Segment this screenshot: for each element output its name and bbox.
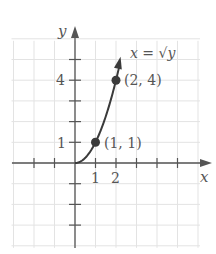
data-point <box>112 76 121 85</box>
equation-label: x = √y <box>130 45 176 61</box>
y-axis-arrow-icon <box>71 26 79 38</box>
curve-arrow-icon <box>114 57 122 70</box>
point-label-1-1: (1, 1) <box>104 135 142 151</box>
graph-figure: y x x = √y 1 2 1 4 (1, 1) (2, 4) <box>0 0 216 254</box>
y-axis-label: y <box>57 22 67 40</box>
y-tick-label-1: 1 <box>57 135 66 151</box>
x-axis-label: x <box>200 168 209 186</box>
point-label-2-4: (2, 4) <box>124 72 162 88</box>
x-axis-arrow-icon <box>200 159 212 167</box>
x-tick-label-1: 1 <box>91 170 100 186</box>
y-tick-label-4: 4 <box>56 72 65 88</box>
data-point <box>91 138 100 147</box>
x-tick-label-2: 2 <box>111 170 120 186</box>
